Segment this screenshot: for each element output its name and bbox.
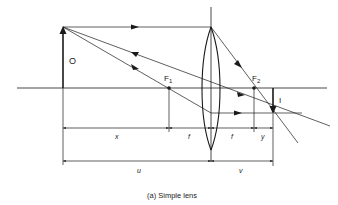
f1-label: F1 (164, 74, 173, 84)
dim-x-label: x (114, 133, 119, 140)
object-label: O (69, 56, 76, 66)
dim-y-label: y (260, 133, 265, 141)
ray-chief (63, 27, 330, 126)
f2-label: F2 (252, 74, 261, 84)
figure-caption: (a) Simple lens (147, 191, 197, 200)
object-arrow (60, 26, 67, 165)
dim-f-left-label: f (188, 133, 191, 140)
simple-lens-diagram: O I F1 F2 x f f y (0, 0, 338, 205)
dim-f-right-label: f (231, 133, 234, 140)
image-arrow (270, 88, 277, 166)
dim-v-label: v (239, 167, 243, 174)
dim-u-label: u (137, 167, 141, 174)
image-label: I (279, 96, 281, 105)
ray-parallel (63, 25, 298, 144)
